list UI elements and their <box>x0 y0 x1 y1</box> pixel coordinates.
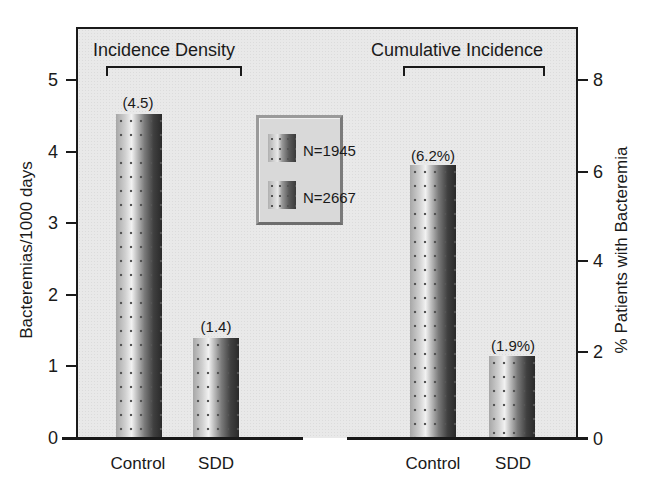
bar-value-label: (1.9%) <box>473 337 553 354</box>
legend-label: N=1945 <box>303 142 356 159</box>
left-tick-2 <box>66 294 76 296</box>
right-tick-label: 6 <box>588 163 608 181</box>
right-tick-8 <box>578 79 588 81</box>
left-group-bracket <box>106 66 242 76</box>
left-tick-label: 3 <box>43 214 63 232</box>
bar-value-label: (1.4) <box>176 318 256 335</box>
right-y-axis-label: % Patients with Bacteremia <box>612 147 632 354</box>
right-group-bracket <box>403 66 545 76</box>
left-tick-label: 4 <box>43 143 63 161</box>
right-tick-6 <box>578 171 588 173</box>
category-label: SDD <box>176 454 256 474</box>
right-tick-label: 0 <box>588 430 608 448</box>
left-group-title: Incidence Density <box>93 40 235 61</box>
x-axis-left <box>62 437 303 440</box>
left-tick-label: 5 <box>43 71 63 89</box>
category-label: Control <box>393 454 473 474</box>
bar-sdd-incidence-density <box>193 338 239 437</box>
right-tick-4 <box>578 260 588 262</box>
legend-swatch-sdd <box>268 181 296 209</box>
bar-sdd-cumulative-incidence <box>489 356 535 437</box>
right-group-title: Cumulative Incidence <box>371 40 543 61</box>
left-tick-4 <box>66 151 76 153</box>
bar-control-incidence-density <box>116 114 162 437</box>
right-tick-2 <box>578 351 588 353</box>
legend-label: N=2667 <box>303 189 356 206</box>
left-tick-label: 0 <box>43 429 63 447</box>
x-axis-right <box>347 437 588 440</box>
bar-value-label: (4.5) <box>98 94 178 111</box>
left-y-axis-label: Bacteremias/1000 days <box>17 161 37 339</box>
category-label: SDD <box>473 454 553 474</box>
left-tick-label: 2 <box>43 286 63 304</box>
left-tick-3 <box>66 222 76 224</box>
bar-value-label: (6.2%) <box>393 147 473 164</box>
right-tick-label: 8 <box>588 71 608 89</box>
right-tick-label: 2 <box>588 343 608 361</box>
category-label: Control <box>98 454 178 474</box>
legend-swatch-control <box>268 134 296 162</box>
bar-control-cumulative-incidence <box>410 165 456 437</box>
left-tick-5 <box>66 79 76 81</box>
left-tick-label: 1 <box>43 357 63 375</box>
right-tick-label: 4 <box>588 252 608 270</box>
left-tick-1 <box>66 365 76 367</box>
